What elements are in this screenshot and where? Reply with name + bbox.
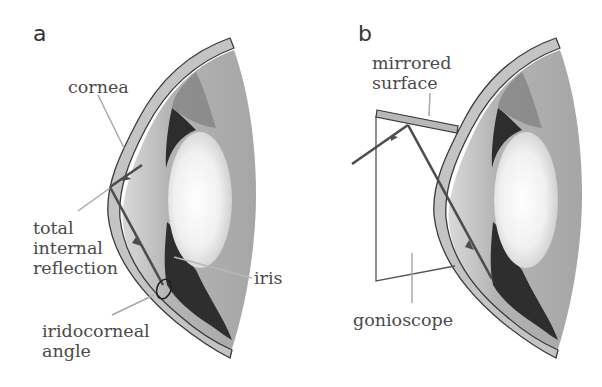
leader-angle xyxy=(112,295,154,315)
lens-b xyxy=(494,132,558,268)
label-tir-1: total xyxy=(33,218,74,238)
panel-b: b mirrored surface gonioscope xyxy=(352,21,582,358)
leader-mirror xyxy=(429,93,430,116)
label-tir-3: reflection xyxy=(33,258,118,278)
label-cornea: cornea xyxy=(68,77,129,97)
eye-gonioscopy-figure: a cornea total internal reflection iris … xyxy=(0,0,602,387)
label-angle-1: iridocorneal xyxy=(42,321,150,341)
label-tir-2: internal xyxy=(33,238,103,258)
panel-letter-a: a xyxy=(33,21,46,46)
ray-to-observer-b xyxy=(352,125,408,164)
label-angle-2: angle xyxy=(42,341,91,361)
label-mirror-1: mirrored xyxy=(372,53,451,73)
label-gonioscope: gonioscope xyxy=(353,310,453,330)
mirrored-surface xyxy=(376,110,458,133)
leader-tir xyxy=(78,188,110,211)
panel-letter-b: b xyxy=(358,21,372,46)
label-mirror-2: surface xyxy=(372,73,438,93)
label-iris: iris xyxy=(254,268,283,288)
leader-cornea xyxy=(98,95,124,148)
lens xyxy=(168,132,232,268)
panel-a: a cornea total internal reflection iris … xyxy=(33,21,283,361)
